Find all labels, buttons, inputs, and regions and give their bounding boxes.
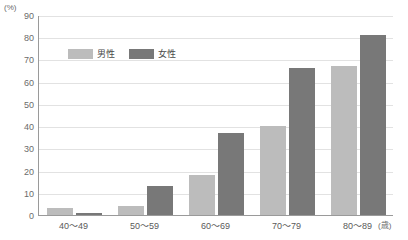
legend-label-female: 女性 bbox=[158, 47, 176, 60]
bar-female[interactable] bbox=[360, 35, 386, 215]
plot-area bbox=[38, 16, 393, 216]
chart-container: (%) 0102030405060708090 40〜4950〜5960〜697… bbox=[0, 0, 408, 240]
legend-item-male[interactable]: 男性 bbox=[68, 47, 115, 60]
x-axis-unit-label: (歳) bbox=[378, 219, 391, 230]
y-tick-label: 50 bbox=[4, 100, 34, 110]
bars-layer bbox=[39, 16, 393, 215]
y-tick-label: 0 bbox=[4, 211, 34, 221]
bar-male[interactable] bbox=[260, 126, 286, 215]
x-tick-label: 40〜49 bbox=[59, 219, 88, 232]
legend-item-female[interactable]: 女性 bbox=[129, 47, 176, 60]
legend-swatch-female-icon bbox=[129, 49, 154, 59]
y-tick-label: 60 bbox=[4, 78, 34, 88]
legend-label-male: 男性 bbox=[97, 47, 115, 60]
bar-group bbox=[323, 16, 394, 215]
y-axis-tick-labels: 0102030405060708090 bbox=[2, 16, 34, 216]
y-tick-label: 80 bbox=[4, 33, 34, 43]
bar-group bbox=[39, 16, 110, 215]
bar-male[interactable] bbox=[331, 66, 357, 215]
legend-swatch-male-icon bbox=[68, 49, 93, 59]
bar-group bbox=[110, 16, 181, 215]
y-tick-label: 40 bbox=[4, 122, 34, 132]
x-axis-tick-labels: 40〜4950〜5960〜6970〜7980〜89 bbox=[38, 219, 393, 235]
y-tick-label: 30 bbox=[4, 144, 34, 154]
x-tick-label: 80〜89 bbox=[343, 219, 372, 232]
y-tick-label: 20 bbox=[4, 167, 34, 177]
y-tick-label: 90 bbox=[4, 11, 34, 21]
legend: 男性 女性 bbox=[68, 47, 176, 60]
bar-group bbox=[181, 16, 252, 215]
bar-female[interactable] bbox=[218, 133, 244, 215]
x-tick-label: 70〜79 bbox=[272, 219, 301, 232]
bar-male[interactable] bbox=[189, 175, 215, 215]
bar-female[interactable] bbox=[76, 213, 102, 215]
bar-male[interactable] bbox=[118, 206, 144, 215]
x-tick-label: 60〜69 bbox=[201, 219, 230, 232]
bar-male[interactable] bbox=[47, 208, 73, 215]
bar-female[interactable] bbox=[289, 68, 315, 215]
bar-female[interactable] bbox=[147, 186, 173, 215]
y-tick-label: 10 bbox=[4, 189, 34, 199]
x-tick-label: 50〜59 bbox=[130, 219, 159, 232]
bar-group bbox=[252, 16, 323, 215]
y-tick-label: 70 bbox=[4, 55, 34, 65]
